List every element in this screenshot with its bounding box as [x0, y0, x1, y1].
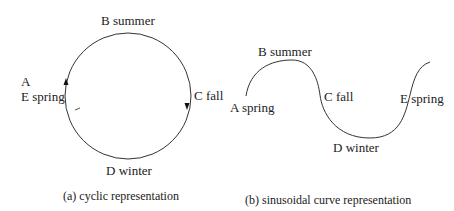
diagram-canvas — [0, 0, 454, 211]
season-cycle-circle — [65, 33, 191, 159]
label-b-summer-b: B summer — [258, 45, 312, 58]
label-b-summer-a: B summer — [101, 14, 155, 27]
label-d-winter-b: D winter — [333, 141, 379, 154]
label-a-spring-b: A spring — [230, 101, 274, 114]
label-e-spring-a: E spring — [21, 90, 65, 103]
caption-a: (a) cyclic representation — [63, 190, 179, 202]
arrow-down-icon — [185, 103, 190, 110]
stray-mark — [75, 108, 80, 110]
label-c-fall-b: C fall — [324, 90, 353, 103]
label-e-spring-b: E spring — [400, 92, 444, 105]
label-d-winter-a: D winter — [106, 164, 152, 177]
label-a-a: A — [21, 75, 30, 88]
caption-b: (b) sinusoidal curve representation — [245, 194, 411, 206]
label-c-fall-a: C fall — [194, 89, 223, 102]
